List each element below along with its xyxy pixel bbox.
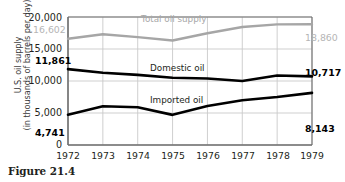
y-tick-label: 0 — [18, 140, 62, 150]
x-tick-label: 1975 — [153, 151, 193, 161]
plot-area: 20,000 15,000 10,000 5,000 0 1972 1973 1… — [0, 0, 345, 182]
series-label-total-oil-supply: Total oil supply — [141, 14, 206, 24]
value-label-total-end: 18,860 — [305, 33, 338, 43]
x-tick-label: 1974 — [118, 151, 158, 161]
x-tick-label: 1977 — [223, 151, 263, 161]
figure-caption: Figure 21.4 — [8, 165, 75, 177]
y-tick-label: 10,000 — [18, 76, 62, 86]
value-label-domestic-end: 10,717 — [305, 68, 341, 78]
value-label-domestic-start: 11,861 — [35, 56, 71, 66]
series-label-domestic-oil: Domestic oil — [150, 63, 205, 73]
y-tick-label: 15,000 — [18, 44, 62, 54]
value-label-imported-end: 8,143 — [305, 124, 335, 134]
y-tick-label: 20,000 — [18, 13, 62, 23]
x-tick-label: 1973 — [83, 151, 123, 161]
x-tick-label: 1972 — [48, 151, 88, 161]
value-label-total-start: 16,602 — [33, 25, 66, 35]
y-tick-label: 5,000 — [18, 108, 62, 118]
value-label-imported-start: 4,741 — [35, 128, 65, 138]
x-tick-label: 1976 — [188, 151, 228, 161]
series-label-imported-oil: Imported oil — [150, 95, 203, 105]
figure-container: U.S. oil supply (in thousands of barrels… — [0, 0, 345, 182]
x-tick-label: 1979 — [292, 151, 332, 161]
